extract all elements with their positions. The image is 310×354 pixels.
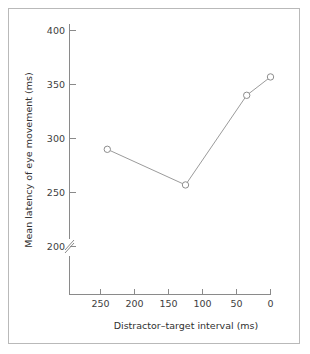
x-tick-label-250: 250 xyxy=(91,298,109,309)
data-point xyxy=(244,92,250,98)
data-point xyxy=(267,74,273,80)
y-axis-title: Mean latency of eye movement (ms) xyxy=(23,72,34,247)
y-axis-ticks xyxy=(70,31,76,247)
x-tick-label-100: 100 xyxy=(193,298,211,309)
x-tick-label-200: 200 xyxy=(125,298,143,309)
y-tick-label-200: 200 xyxy=(47,241,65,252)
series-markers xyxy=(104,74,274,188)
x-axis-ticks xyxy=(101,289,271,295)
x-tick-label-50: 50 xyxy=(230,298,242,309)
x-axis-title: Distractor–target interval (ms) xyxy=(114,320,259,331)
y-tick-label-400: 400 xyxy=(47,25,65,36)
line-chart: 400 350 300 250 200 250 200 150 100 50 0… xyxy=(0,0,310,354)
x-tick-label-0: 0 xyxy=(267,298,273,309)
figure-root: 400 350 300 250 200 250 200 150 100 50 0… xyxy=(0,0,310,354)
x-tick-label-150: 150 xyxy=(159,298,177,309)
y-tick-label-300: 300 xyxy=(47,133,65,144)
data-point xyxy=(104,146,110,152)
y-tick-label-350: 350 xyxy=(47,79,65,90)
data-point xyxy=(182,182,188,188)
y-tick-label-250: 250 xyxy=(47,187,65,198)
